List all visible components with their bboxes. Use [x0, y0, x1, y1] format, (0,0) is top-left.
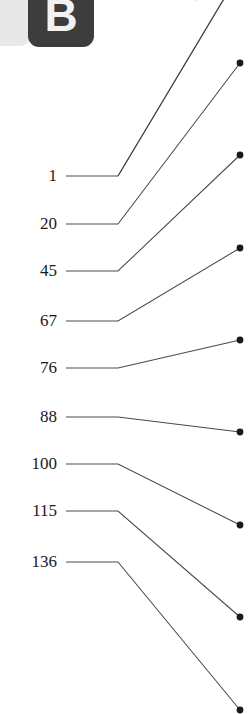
- connector-path: [66, 464, 240, 525]
- connector-path: [66, 155, 240, 271]
- leaf-label: 88: [0, 407, 57, 427]
- leaf-label: 115: [0, 501, 57, 521]
- leaf-label: 76: [0, 358, 57, 378]
- terminal-dot[interactable]: [237, 60, 244, 67]
- leaf-label: 136: [0, 552, 57, 572]
- connector-path: [66, 562, 240, 710]
- leaf-label: 20: [0, 214, 57, 234]
- connector-path: [66, 63, 240, 224]
- terminal-dot[interactable]: [237, 614, 244, 621]
- connector-path: [66, 511, 240, 617]
- connector-path: [66, 417, 240, 432]
- terminal-dot[interactable]: [237, 522, 244, 529]
- connector-layer: [0, 0, 251, 714]
- connector-path: [66, 340, 240, 368]
- terminal-dot[interactable]: [237, 245, 244, 252]
- terminal-dot[interactable]: [237, 152, 244, 159]
- figure-root: B 12045677688100115136: [0, 0, 251, 714]
- connector-path: [66, 248, 240, 321]
- connector-path: [66, 0, 240, 176]
- connector-path-group: [66, 0, 240, 710]
- leaf-label: 1: [0, 166, 57, 186]
- leaf-label: 67: [0, 311, 57, 331]
- leaf-label: 100: [0, 454, 57, 474]
- terminal-dot[interactable]: [237, 429, 244, 436]
- leaf-label: 45: [0, 261, 57, 281]
- terminal-dot[interactable]: [237, 337, 244, 344]
- terminal-dot[interactable]: [237, 707, 244, 714]
